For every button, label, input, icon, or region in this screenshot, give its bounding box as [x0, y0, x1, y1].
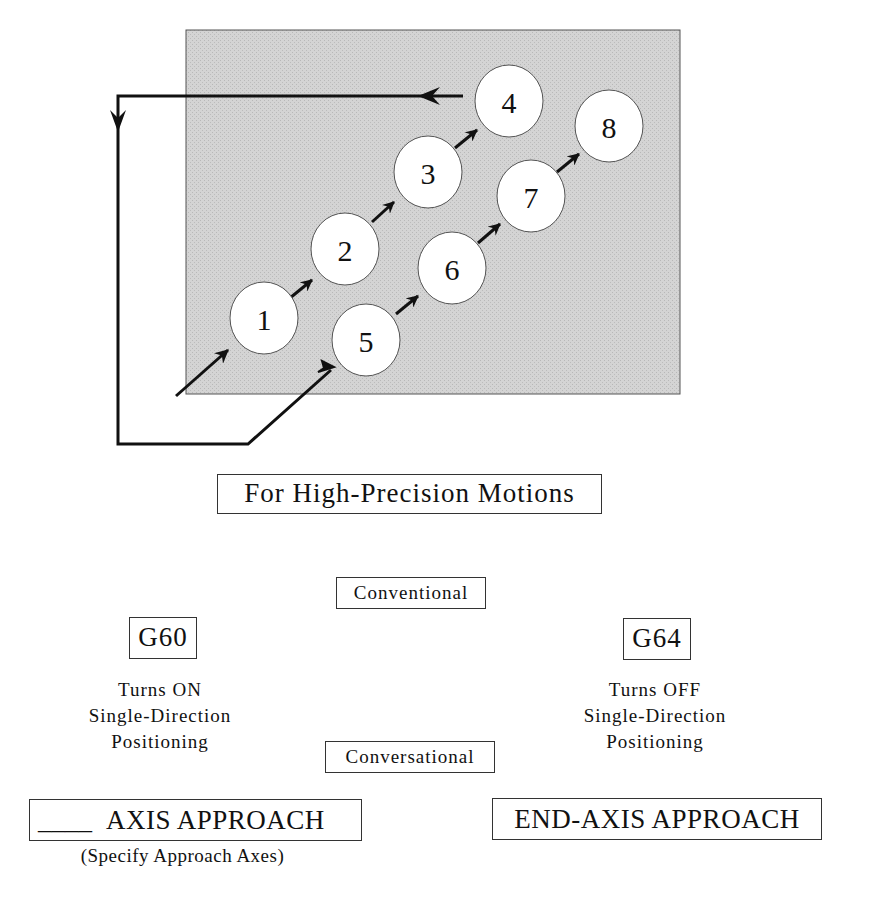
hole-7: 7 [497, 160, 565, 232]
conventional-label: Conventional [336, 577, 486, 609]
svg-text:2: 2 [338, 234, 353, 267]
positioning-diagram: 1 2 3 4 5 6 7 8 [0, 0, 871, 470]
svg-text:7: 7 [524, 181, 539, 214]
hole-4: 4 [475, 65, 543, 137]
axis-blank: ____ [38, 805, 92, 835]
axis-approach-note: (Specify Approach Axes) [30, 844, 335, 868]
g64-code-box: G64 [623, 618, 691, 660]
caption-box: For High-Precision Motions [217, 474, 602, 514]
hole-2: 2 [311, 213, 379, 285]
hole-1: 1 [230, 282, 298, 354]
svg-text:5: 5 [359, 325, 374, 358]
hole-3: 3 [394, 136, 462, 208]
end-axis-approach-box: END-AXIS APPROACH [492, 798, 822, 840]
svg-text:3: 3 [421, 157, 436, 190]
axis-approach-box: ____AXIS APPROACH [29, 799, 362, 841]
g60-description: Turns ON Single-Direction Positioning [40, 677, 280, 755]
svg-text:4: 4 [502, 86, 517, 119]
hole-6: 6 [418, 232, 486, 304]
hole-5: 5 [332, 304, 400, 376]
g64-description: Turns OFF Single-Direction Positioning [530, 677, 780, 755]
hole-8: 8 [575, 90, 643, 162]
g60-code-box: G60 [129, 617, 197, 659]
svg-text:6: 6 [445, 253, 460, 286]
svg-text:1: 1 [257, 303, 272, 336]
axis-approach-label: AXIS APPROACH [106, 805, 325, 835]
svg-text:8: 8 [602, 111, 617, 144]
conversational-label: Conversational [325, 741, 495, 773]
